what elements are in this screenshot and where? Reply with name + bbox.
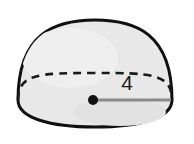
center-dot [88,95,98,105]
radius-label: 4 [121,71,133,94]
highlight-blob [22,28,118,88]
base-shadow-blob [74,98,166,126]
hemisphere-diagram: 4 [0,0,194,144]
hemisphere-figure-canvas: 4 [0,0,194,144]
